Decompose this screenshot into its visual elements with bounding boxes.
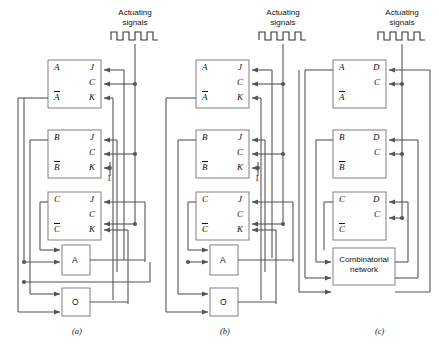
flipflop-c-qbar-label: C — [339, 224, 345, 234]
flipflop-b-input-k: K — [89, 162, 95, 172]
flipflop-a-input-d: D — [373, 62, 380, 72]
and-gate-label: A — [220, 255, 226, 265]
panel-b-wires — [166, 44, 293, 316]
flipflop-c-q-label: C — [54, 194, 60, 204]
clock-header-line1: Actuating — [251, 8, 315, 18]
flipflop-c-input-d: D — [373, 194, 380, 204]
flipflop-a-q-label: A — [339, 62, 345, 72]
flipflop-a-input-k: K — [89, 92, 95, 102]
flipflop-c-input-j: J — [90, 194, 94, 204]
flipflop-a-input-j: J — [238, 62, 242, 72]
flipflop-c-q-label: C — [202, 194, 208, 204]
flipflop-c-input-k: K — [237, 224, 243, 234]
combinatorial-network-line2: network — [333, 265, 395, 275]
flipflop-b-input-c: C — [89, 147, 95, 157]
panel-c-caption: (c) — [375, 326, 384, 336]
figure-canvas — [0, 0, 439, 346]
square-wave-icon — [377, 29, 427, 42]
panel-a-clock-header: Actuating signals — [103, 8, 167, 27]
flipflop-a-input-c: C — [237, 77, 243, 87]
logic-one-label: 1 — [107, 174, 111, 183]
flipflop-b-input-k: K — [237, 162, 243, 172]
combinatorial-network-label: Combinatorial network — [333, 255, 395, 275]
panel-c-clock-header: Actuating signals — [370, 8, 434, 27]
panel-b-clock-header: Actuating signals — [251, 8, 315, 27]
panel-a-caption: (a) — [72, 326, 82, 336]
flipflop-c-qbar-label: C — [54, 224, 60, 234]
flipflop-b-qbar-label: B — [339, 162, 345, 172]
flipflop-a-q-label: A — [202, 62, 208, 72]
or-gate-label: O — [220, 297, 227, 307]
flipflop-c-q-label: C — [339, 194, 345, 204]
flipflop-b-input-c: C — [374, 147, 380, 157]
flipflop-c-input-j: J — [238, 194, 242, 204]
panel-a-wires — [18, 44, 150, 316]
flipflop-b-input-j: J — [90, 132, 94, 142]
or-gate-label: O — [72, 297, 79, 307]
flipflop-a-qbar-label: A — [339, 92, 345, 102]
square-wave-icon — [258, 29, 308, 42]
panel-b-caption: (b) — [220, 326, 230, 336]
flipflop-b-input-c: C — [237, 147, 243, 157]
flipflop-c-input-c: C — [237, 209, 243, 219]
flipflop-b-q-label: B — [339, 132, 345, 142]
flipflop-b-qbar-label: B — [54, 162, 60, 172]
flipflop-a-input-c: C — [89, 77, 95, 87]
flipflop-a-input-j: J — [90, 62, 94, 72]
and-gate-label: A — [72, 255, 78, 265]
combinatorial-network-line1: Combinatorial — [333, 255, 395, 265]
flipflop-b-q-label: B — [202, 132, 208, 142]
flipflop-c-input-c: C — [374, 209, 380, 219]
flipflop-c-input-c: C — [89, 209, 95, 219]
clock-header-line2: signals — [251, 18, 315, 28]
clock-header-line1: Actuating — [370, 8, 434, 18]
flipflop-b-q-label: B — [54, 132, 60, 142]
flipflop-a-input-c: C — [374, 77, 380, 87]
flipflop-a-input-k: K — [237, 92, 243, 102]
clock-header-line2: signals — [370, 18, 434, 28]
flipflop-b-input-d: D — [373, 132, 380, 142]
clock-header-line1: Actuating — [103, 8, 167, 18]
flipflop-b-qbar-label: B — [202, 162, 208, 172]
flipflop-b-input-j: J — [238, 132, 242, 142]
flipflop-a-qbar-label: A — [202, 92, 208, 102]
flipflop-c-qbar-label: C — [202, 224, 208, 234]
flipflop-a-q-label: A — [54, 62, 60, 72]
square-wave-icon — [110, 29, 160, 42]
flipflop-c-input-k: K — [89, 224, 95, 234]
clock-header-line2: signals — [103, 18, 167, 28]
flipflop-a-qbar-label: A — [54, 92, 60, 102]
logic-one-label: 1 — [255, 174, 259, 183]
